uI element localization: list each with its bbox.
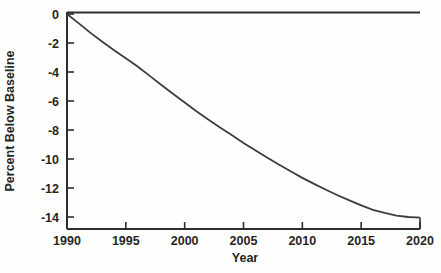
x-tick-label: 1995 bbox=[112, 234, 140, 248]
x-tick-label: 2020 bbox=[406, 234, 434, 248]
data-line-percent-below-baseline bbox=[67, 14, 420, 218]
x-tick-group: 1990199520002005201020152020 bbox=[53, 222, 434, 248]
x-tick-label: 2015 bbox=[347, 234, 375, 248]
y-tick-group: 0-2-4-6-8-10-12-14 bbox=[41, 8, 74, 225]
x-tick-label: 1990 bbox=[53, 234, 81, 248]
y-tick-label: -12 bbox=[41, 182, 59, 196]
x-tick-label: 2005 bbox=[230, 234, 258, 248]
chart-figure: 0-2-4-6-8-10-12-14 199019952000200520102… bbox=[0, 0, 441, 273]
y-tick-label: -14 bbox=[41, 211, 59, 225]
y-tick-label: -2 bbox=[48, 37, 59, 51]
y-tick-label: -8 bbox=[48, 124, 59, 138]
x-axis-label: Year bbox=[232, 251, 259, 265]
x-tick-label: 2000 bbox=[171, 234, 199, 248]
y-tick-label: -6 bbox=[48, 95, 59, 109]
line-chart: 0-2-4-6-8-10-12-14 199019952000200520102… bbox=[0, 0, 441, 273]
x-tick-label: 2010 bbox=[288, 234, 316, 248]
y-tick-label: -4 bbox=[48, 66, 59, 80]
y-axis-label: Percent Below Baseline bbox=[3, 50, 17, 191]
y-tick-label: -10 bbox=[41, 153, 59, 167]
y-tick-label: 0 bbox=[52, 8, 59, 22]
